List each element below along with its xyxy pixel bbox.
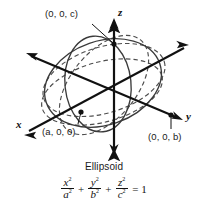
ellipsoid-outline — [33, 24, 174, 142]
plus-sign-2: + — [104, 183, 113, 195]
y-axis-arrow-back — [26, 53, 38, 61]
point-label-a: (a, 0, 0) — [42, 126, 76, 137]
solid-traces — [33, 24, 174, 142]
denominator-b: b2 — [88, 189, 101, 200]
x-axis-arrow-back — [176, 41, 189, 48]
ellipsoid-figure: z y x (0, 0, c) (a, 0, 0) (0, 0, b) Elli… — [0, 0, 208, 205]
equation-rhs: = 1 — [130, 183, 146, 195]
z-axis-label: z — [118, 6, 122, 18]
x-axis-arrow — [24, 132, 37, 139]
fraction-x-over-a: x2 a2 — [61, 177, 74, 200]
point-label-c: (0, 0, c) — [45, 8, 78, 19]
denominator-a: a2 — [61, 189, 74, 200]
fraction-z-over-c: z2 c2 — [116, 177, 128, 200]
x-axis-label: x — [16, 118, 22, 130]
y-axis-line — [31, 56, 176, 117]
ellipsoid-equation: x2 a2 + y2 b2 + z2 c2 = 1 — [0, 177, 208, 200]
plus-sign-1: + — [76, 183, 85, 195]
y-axis-label: y — [186, 110, 191, 122]
figure-caption: Ellipsoid — [0, 161, 208, 172]
fraction-y-over-b: y2 b2 — [88, 177, 101, 200]
point-label-b: (0, 0, b) — [148, 131, 182, 142]
ellipsoid-diagram — [0, 0, 208, 205]
marker-b-intercept — [168, 112, 173, 117]
denominator-c: c2 — [116, 189, 128, 200]
